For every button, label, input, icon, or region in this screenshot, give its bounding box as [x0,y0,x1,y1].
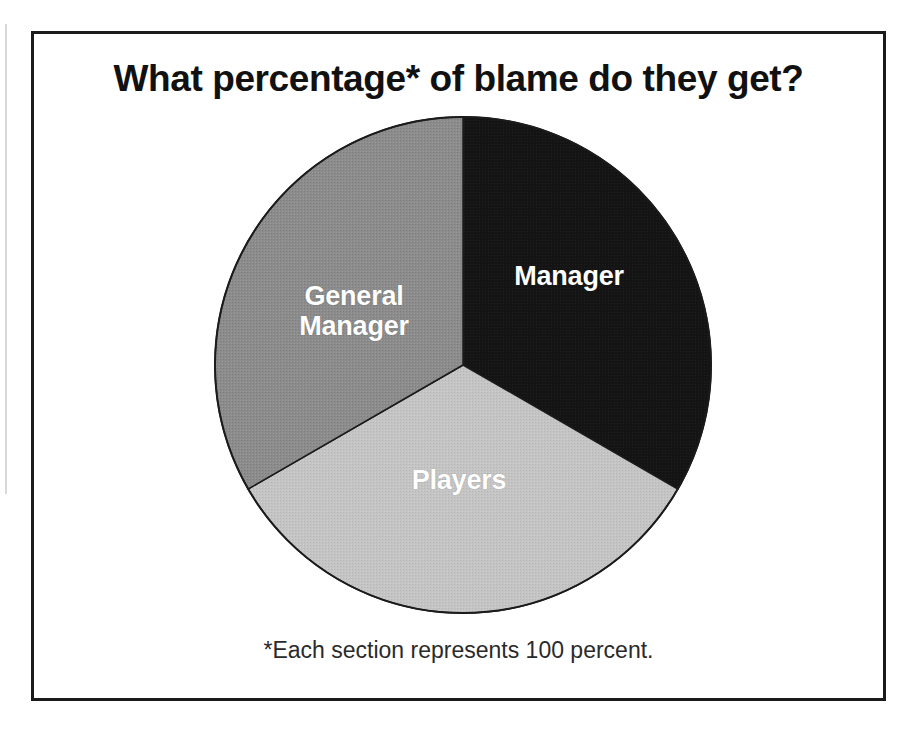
pie-chart-svg [211,113,715,617]
pie-label-general-manager-line2: Manager [299,311,409,341]
pie-chart: Manager General Manager Players [211,113,715,617]
figure-frame: What percentage* of blame do they get? [31,31,886,701]
pie-label-manager: Manager [469,261,669,291]
chart-title: What percentage* of blame do they get? [34,58,883,100]
pie-label-general-manager: General Manager [249,281,459,341]
pie-label-general-manager-line1: General [304,281,403,311]
scan-artifact-line [5,24,7,494]
pie-label-players: Players [359,465,559,495]
figure-container: What percentage* of blame do they get? [0,0,915,733]
chart-footnote: *Each section represents 100 percent. [34,637,883,664]
